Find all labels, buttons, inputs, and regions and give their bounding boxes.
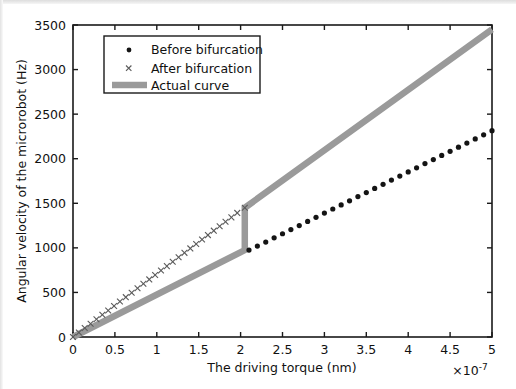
data-marker-dot xyxy=(364,190,369,195)
data-marker-x xyxy=(205,232,211,238)
data-marker-dot xyxy=(313,215,318,220)
data-marker-x xyxy=(146,277,152,283)
data-marker-x xyxy=(164,263,170,269)
data-marker-dot xyxy=(448,149,453,154)
data-marker-x xyxy=(217,223,223,229)
x-tick-label: 4 xyxy=(404,342,412,357)
y-axis-tick-labels: 0500100015002000250030003500 xyxy=(34,18,66,345)
data-marker-dot xyxy=(464,141,469,146)
legend-label-1: After bifurcation xyxy=(151,61,252,76)
data-marker-x xyxy=(140,281,146,287)
series-after-bifurcation xyxy=(70,205,248,340)
y-tick-label: 0 xyxy=(58,330,66,345)
data-marker-dot xyxy=(431,157,436,162)
data-marker-x xyxy=(176,254,182,260)
data-marker-x xyxy=(99,312,105,318)
data-marker-x xyxy=(94,316,100,322)
data-marker-dot xyxy=(339,202,344,207)
data-marker-x xyxy=(123,294,129,300)
data-marker-dot xyxy=(456,145,461,150)
x-tick-label: 5 xyxy=(488,342,496,357)
data-marker-x xyxy=(182,250,188,256)
figure-canvas: 00.511.522.533.544.55 050010001500200025… xyxy=(0,0,516,389)
data-marker-dot xyxy=(305,219,310,224)
data-marker-dot xyxy=(481,132,486,137)
data-marker-x xyxy=(135,285,141,291)
data-marker-x xyxy=(193,241,199,247)
legend-label-0: Before bifurcation xyxy=(151,42,263,57)
x-tick-label: 3.5 xyxy=(356,342,376,357)
y-tick-label: 500 xyxy=(42,285,66,300)
data-marker-dot xyxy=(380,182,385,187)
data-marker-dot xyxy=(246,247,251,252)
data-marker-dot xyxy=(389,178,394,183)
data-marker-x xyxy=(170,259,176,265)
x-axis-exponent-power: -7 xyxy=(479,362,488,372)
data-marker-x xyxy=(158,268,164,274)
y-tick-label: 3500 xyxy=(34,18,66,33)
chart-legend: Before bifurcation After bifurcation Act… xyxy=(104,36,263,93)
x-tick-label: 0 xyxy=(69,342,77,357)
y-tick-label: 3000 xyxy=(34,62,66,77)
data-marker-x xyxy=(117,299,123,305)
data-marker-x xyxy=(199,237,205,243)
data-marker-x xyxy=(105,308,111,314)
data-marker-dot xyxy=(489,128,494,133)
x-tick-label: 2 xyxy=(237,342,245,357)
x-axis-exponent: ×10-7 xyxy=(452,362,487,378)
data-marker-dot xyxy=(406,169,411,174)
y-tick-label: 1000 xyxy=(34,240,66,255)
data-marker-dot xyxy=(422,161,427,166)
data-marker-dot xyxy=(347,198,352,203)
y-tick-label: 2500 xyxy=(34,107,66,122)
x-axis-exponent-base: ×10 xyxy=(452,363,478,378)
data-marker-dot xyxy=(297,223,302,228)
x-axis-title: The driving torque (nm) xyxy=(206,360,356,375)
data-marker-dot xyxy=(414,165,419,170)
x-axis-tick-labels: 00.511.522.533.544.55 xyxy=(69,342,496,357)
data-marker-dot xyxy=(473,136,478,141)
data-marker-x xyxy=(234,210,240,216)
data-marker-x xyxy=(111,303,117,309)
x-tick-label: 4.5 xyxy=(440,342,460,357)
data-marker-x xyxy=(211,228,217,234)
y-tick-label: 2000 xyxy=(34,151,66,166)
data-marker-x xyxy=(152,272,158,278)
legend-marker-dot-icon xyxy=(127,48,132,53)
data-marker-x xyxy=(228,214,234,220)
data-marker-dot xyxy=(280,231,285,236)
data-marker-dot xyxy=(397,173,402,178)
data-marker-dot xyxy=(372,186,377,191)
x-tick-label: 0.5 xyxy=(105,342,125,357)
data-marker-x xyxy=(223,219,229,225)
data-marker-dot xyxy=(263,239,268,244)
x-tick-label: 3 xyxy=(320,342,328,357)
x-tick-label: 2.5 xyxy=(273,342,293,357)
data-marker-dot xyxy=(355,194,360,199)
data-marker-x xyxy=(129,290,135,296)
legend-label-2: Actual curve xyxy=(151,78,229,93)
data-marker-dot xyxy=(439,153,444,158)
data-marker-x xyxy=(187,245,193,251)
series-before-bifurcation xyxy=(246,128,494,253)
x-tick-label: 1 xyxy=(153,342,161,357)
y-tick-label: 1500 xyxy=(34,196,66,211)
x-tick-label: 1.5 xyxy=(189,342,209,357)
data-marker-dot xyxy=(272,235,277,240)
data-marker-dot xyxy=(255,243,260,248)
data-marker-dot xyxy=(288,227,293,232)
scan-artifact-top xyxy=(0,0,516,4)
y-axis-title: Angular velocity of the microrobot (Hz) xyxy=(14,59,29,303)
data-marker-dot xyxy=(330,206,335,211)
angular-velocity-vs-torque-chart: 00.511.522.533.544.55 050010001500200025… xyxy=(0,0,516,389)
data-marker-dot xyxy=(322,210,327,215)
scan-artifact-left xyxy=(0,0,3,389)
